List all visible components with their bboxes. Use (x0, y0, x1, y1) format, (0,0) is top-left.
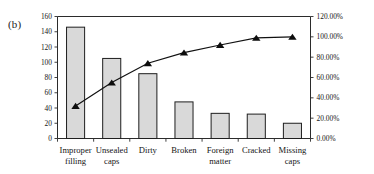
y2-axis-tick-label: 120.00% (317, 12, 343, 21)
cumulative-marker (144, 60, 152, 66)
bar (211, 113, 229, 138)
y2-axis-tick-label: 80.00% (317, 53, 340, 62)
x-axis-category-label: matter (209, 156, 231, 166)
y-axis-tick-label: 140 (41, 27, 52, 36)
y-axis-tick-label: 0 (48, 134, 52, 143)
y-axis-tick-label: 120 (41, 43, 52, 52)
x-axis-category-label: caps (285, 156, 301, 166)
bar (283, 123, 301, 138)
x-axis-category-label: Missing (279, 145, 307, 155)
y-axis-tick-label: 80 (45, 73, 53, 82)
x-axis-category-label: Cracked (242, 145, 271, 155)
y2-axis-tick-label: 0.00% (317, 134, 336, 143)
y-axis-tick-label: 160 (41, 12, 52, 21)
y-axis-tick-label: 60 (45, 88, 53, 97)
x-axis-category-label: Dirty (139, 145, 158, 155)
bar (247, 114, 265, 138)
x-axis-category-label: Broken (171, 145, 197, 155)
x-axis-category-label: Improper (60, 145, 92, 155)
bar (67, 27, 85, 138)
y2-axis-tick-label: 20.00% (317, 114, 340, 123)
y2-axis-tick-label: 40.00% (317, 93, 340, 102)
y-axis-tick-label: 20 (45, 119, 53, 128)
bar (175, 102, 193, 139)
x-axis-category-label: Foreign (207, 145, 234, 155)
bar (103, 58, 121, 138)
x-axis-category-label: Unsealed (96, 145, 129, 155)
pareto-chart-figure: (b) 0204060801001201401600.00%20.00%40.0… (0, 0, 374, 174)
pareto-chart: 0204060801001201401600.00%20.00%40.00%60… (0, 0, 374, 174)
y-axis-tick-label: 100 (41, 58, 52, 67)
x-axis-category-label: filling (65, 156, 87, 166)
y2-axis-tick-label: 100.00% (317, 32, 343, 41)
x-axis-category-label: caps (104, 156, 120, 166)
y2-axis-tick-label: 60.00% (317, 73, 340, 82)
bar (139, 74, 157, 139)
y-axis-tick-label: 40 (45, 104, 53, 113)
